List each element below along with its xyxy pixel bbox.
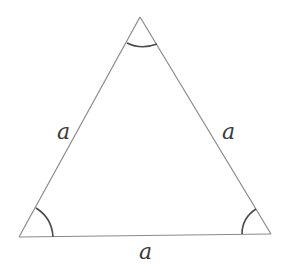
angle-arc-bottom-left — [36, 208, 53, 237]
side-left — [19, 17, 140, 237]
side-right — [140, 17, 271, 234]
side-label-right: a — [222, 119, 235, 144]
triangle-diagram: a a a — [0, 0, 286, 274]
angle-arc-apex — [127, 43, 157, 47]
side-label-left: a — [57, 119, 70, 144]
side-label-base: a — [139, 239, 152, 264]
angle-arc-bottom-right — [242, 209, 256, 234]
side-base — [19, 234, 271, 237]
